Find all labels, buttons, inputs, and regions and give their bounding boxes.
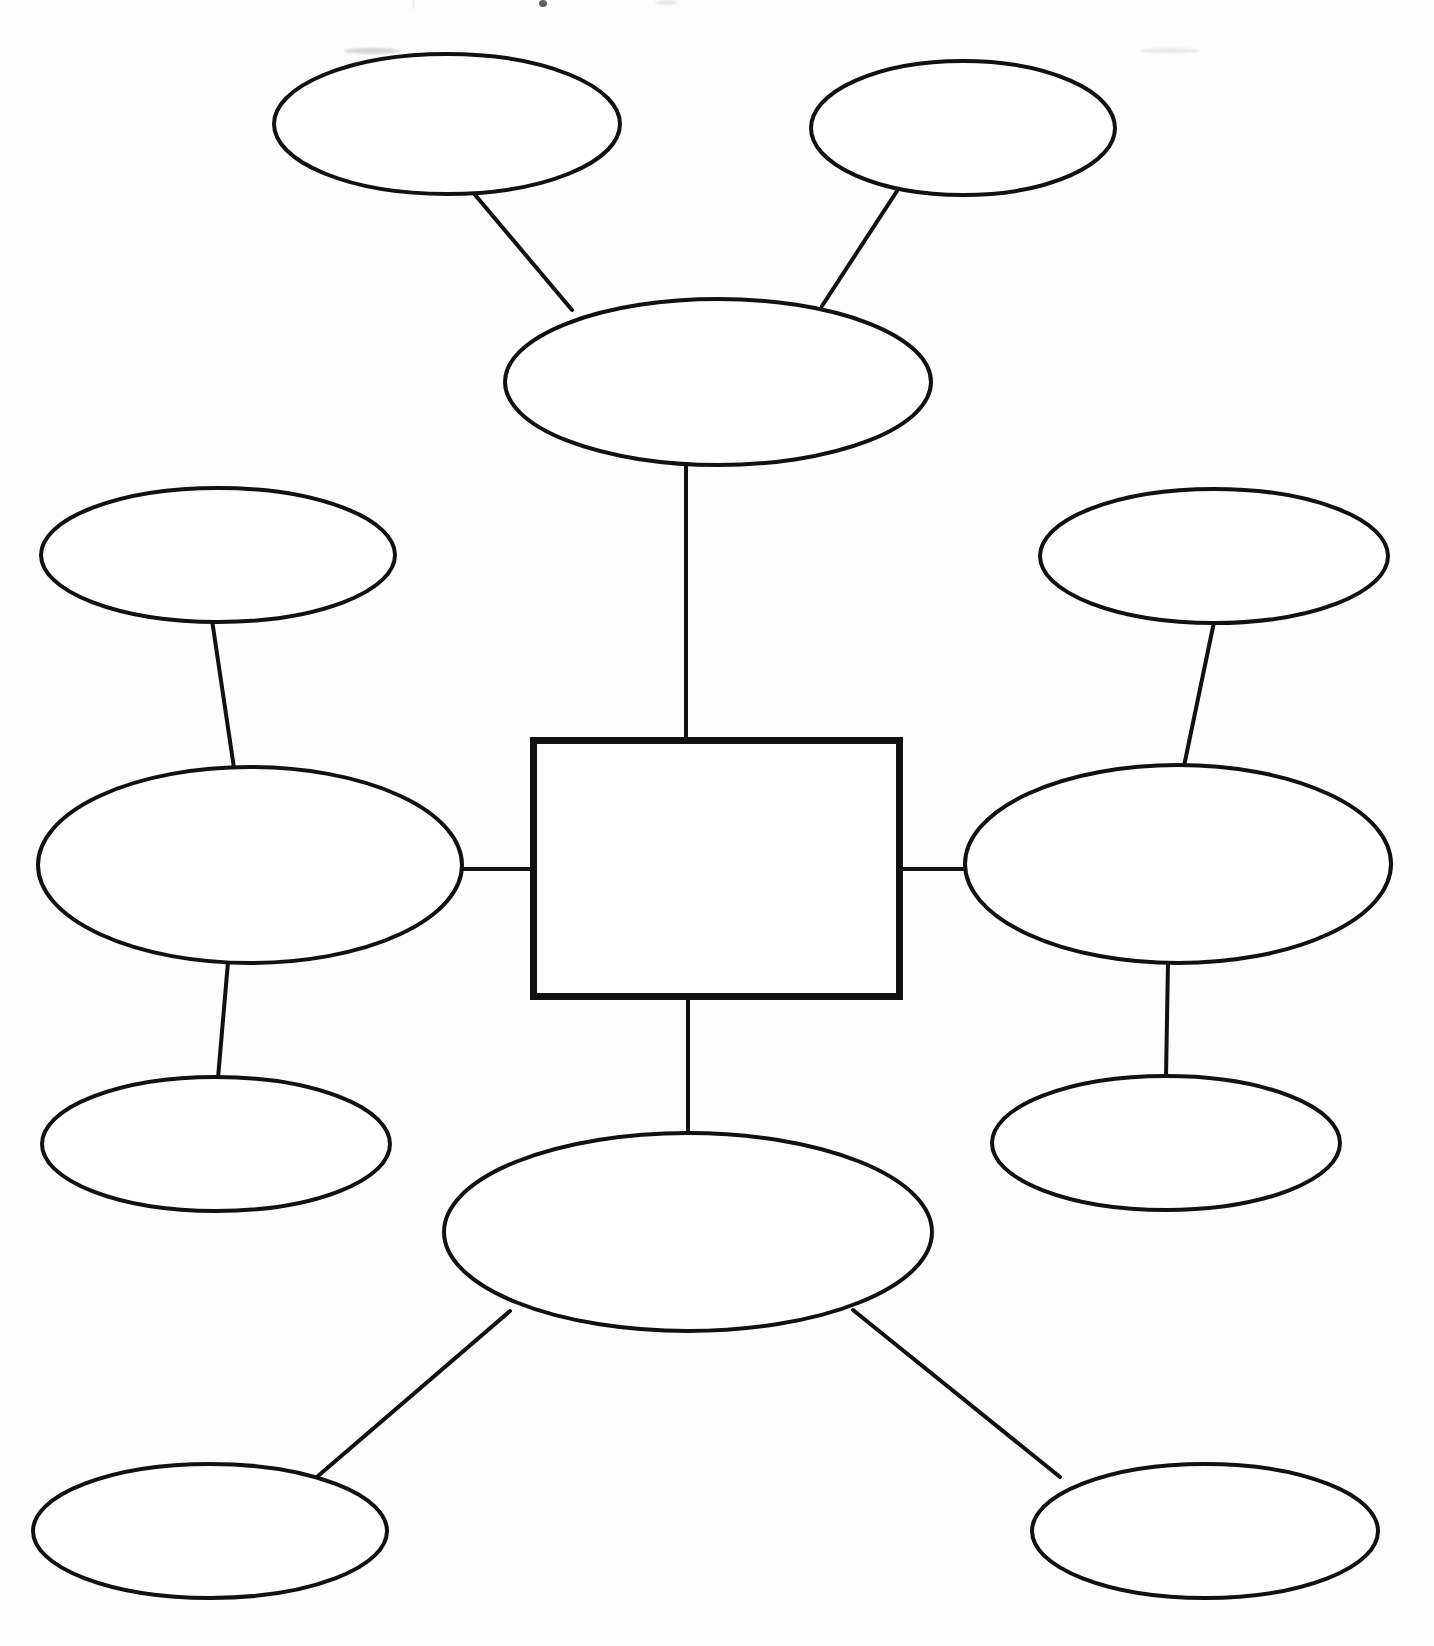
node-shape-primary-left[interactable] — [38, 767, 462, 963]
node-secondary-left-upper[interactable] — [41, 488, 395, 622]
connector-left-to-upper — [212, 620, 234, 768]
concept-map-worksheet — [0, 0, 1434, 1646]
connector-left-to-lower — [218, 962, 228, 1078]
node-secondary-bottom-left[interactable] — [33, 1464, 387, 1598]
node-shape-primary-top[interactable] — [505, 299, 931, 465]
node-shape-secondary-bottom-right[interactable] — [1032, 1464, 1378, 1598]
node-secondary-left-lower[interactable] — [42, 1077, 390, 1211]
node-shape-secondary-bottom-left[interactable] — [33, 1464, 387, 1598]
connector-bottom-to-right — [853, 1310, 1060, 1477]
connector-top-to-topleft — [471, 190, 572, 310]
node-shape-secondary-top-left[interactable] — [274, 54, 620, 194]
node-primary-bottom[interactable] — [444, 1133, 932, 1331]
center-node-group[interactable] — [534, 741, 900, 997]
node-secondary-right-upper[interactable] — [1040, 489, 1388, 623]
connector-top-to-topright — [822, 191, 897, 306]
node-secondary-bottom-right[interactable] — [1032, 1464, 1378, 1598]
connector-bottom-to-left — [318, 1311, 510, 1476]
node-secondary-right-lower[interactable] — [992, 1076, 1340, 1210]
node-shape-primary-right[interactable] — [965, 765, 1391, 963]
connector-right-to-lower — [1166, 962, 1168, 1077]
center-node-shape[interactable] — [534, 741, 900, 997]
node-primary-top[interactable] — [505, 299, 931, 465]
node-shape-secondary-left-upper[interactable] — [41, 488, 395, 622]
node-shape-secondary-top-right[interactable] — [811, 61, 1115, 195]
node-secondary-top-left[interactable] — [274, 54, 620, 194]
concept-map-canvas — [0, 0, 1434, 1646]
node-shape-secondary-right-upper[interactable] — [1040, 489, 1388, 623]
node-primary-left[interactable] — [38, 767, 462, 963]
node-shape-primary-bottom[interactable] — [444, 1133, 932, 1331]
node-primary-right[interactable] — [965, 765, 1391, 963]
node-secondary-top-right[interactable] — [811, 61, 1115, 195]
connector-right-to-upper — [1184, 622, 1214, 766]
node-shape-secondary-left-lower[interactable] — [42, 1077, 390, 1211]
node-shape-secondary-right-lower[interactable] — [992, 1076, 1340, 1210]
